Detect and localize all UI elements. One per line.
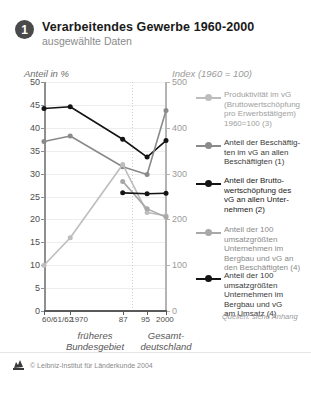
x-axis-tick-mark: [147, 312, 148, 315]
x-axis-tick-mark: [44, 312, 45, 315]
source-note: Quellen: siehe Anhang: [222, 312, 298, 321]
series-point: [164, 138, 169, 143]
y-axis-tick-label: 50: [18, 77, 40, 87]
x-axis-tick-label: 95: [141, 315, 150, 324]
y-axis-tick-label: 10: [18, 260, 40, 270]
x-axis-tick-mark: [123, 312, 124, 315]
y2-axis-tick-mark: [167, 265, 170, 266]
legend-item[interactable]: Anteil der Beschäftig-ten im vG an allen…: [196, 138, 311, 167]
series-point: [68, 134, 73, 139]
x-axis-tick-label: 2000: [156, 315, 174, 324]
figure-number-badge: 1: [15, 20, 34, 39]
y2-axis-tick-mark: [167, 128, 170, 129]
legend-label: Produktivität im vG(Bruttowertschöpfungp…: [224, 90, 311, 128]
series-line: [123, 193, 166, 194]
y-axis-tick-label: 45: [18, 100, 40, 110]
y2-axis-tick-mark: [167, 311, 170, 312]
series-line: [44, 107, 166, 157]
copyright-text: © Leibniz-Institut für Länderkunde 2004: [30, 362, 153, 369]
series-point: [164, 191, 169, 196]
legend-marker-icon: [196, 275, 221, 283]
legend-marker-icon: [196, 229, 221, 237]
y-axis-tick-label: 0: [18, 306, 40, 316]
page-title: Verarbeitendes Gewerbe 1960-2000: [42, 20, 254, 34]
series-point: [120, 179, 125, 184]
series-point: [42, 139, 47, 144]
chart-card: 1 Verarbeitendes Gewerbe 1960-2000 ausge…: [0, 0, 311, 394]
series-point: [42, 263, 47, 268]
y2-axis-tick-label: 100: [172, 260, 198, 270]
group-label-west: früheres Bundesgebiet: [52, 330, 138, 352]
y2-axis-tick-mark: [167, 82, 170, 83]
x-axis-tick-mark: [166, 312, 167, 315]
legend-label: Anteil der 100umsatzgrößtenUnternehmen i…: [224, 225, 311, 273]
legend-label: Anteil der Beschäftig-ten im vG an allen…: [224, 138, 311, 167]
series-point: [68, 104, 73, 109]
x-axis-tick-mark: [70, 312, 71, 315]
y2-axis-tick-mark: [167, 174, 170, 175]
y-axis-tick-label: 40: [18, 123, 40, 133]
x-axis-tick-label: 1970: [70, 315, 88, 324]
page-subtitle: ausgewählte Daten: [42, 35, 132, 47]
series-point: [145, 191, 150, 196]
series-layer: [44, 82, 166, 311]
y-axis-tick-label: 30: [18, 169, 40, 179]
series-point: [68, 235, 73, 240]
group-label-east-line1: Gesamt-: [128, 330, 204, 341]
legend-marker-icon: [196, 142, 221, 150]
series-line: [123, 181, 166, 217]
y2-axis-tick-label: 200: [172, 214, 198, 224]
x-axis-tick-label: 60/61/62: [42, 315, 73, 324]
group-label-east: Gesamt- deutschland: [128, 330, 204, 352]
legend-marker-icon: [196, 180, 221, 188]
series-point: [164, 108, 169, 113]
y2-axis-tick-label: 0: [172, 306, 198, 316]
legend-item[interactable]: Produktivität im vG(Bruttowertschöpfungp…: [196, 90, 311, 128]
legend-item[interactable]: Anteil der Brutto-wertschöpfung desvG an…: [196, 176, 311, 214]
y-axis-tick-label: 25: [18, 192, 40, 202]
y-axis-tick-label: 5: [18, 283, 40, 293]
group-label-west-line2: Bundesgebiet: [52, 341, 138, 352]
series-point: [120, 162, 125, 167]
footer-divider: [0, 352, 311, 353]
x-axis-tick-label: 87: [119, 315, 128, 324]
legend-item[interactable]: Anteil der 100umsatzgrößtenUnternehmen i…: [196, 225, 311, 273]
y2-axis-tick-label: 300: [172, 169, 198, 179]
group-label-east-line2: deutschland: [128, 341, 204, 352]
legend-marker-icon: [196, 94, 221, 102]
y-axis-tick-label: 35: [18, 146, 40, 156]
institute-logo-icon: [12, 357, 27, 371]
legend-label: Anteil der Brutto-wertschöpfung desvG an…: [224, 176, 311, 214]
y-axis-tick-label: 20: [18, 214, 40, 224]
series-point: [145, 155, 150, 160]
group-label-west-line1: früheres: [52, 330, 138, 341]
y-axis-tick-label: 15: [18, 237, 40, 247]
y2-axis-tick-label: 400: [172, 123, 198, 133]
y2-axis-tick-mark: [167, 219, 170, 220]
series-point: [164, 215, 169, 220]
y2-axis-tick-label: 500: [172, 77, 198, 87]
series-point: [120, 137, 125, 142]
series-point: [42, 106, 47, 111]
series-point: [145, 172, 150, 177]
series-point: [145, 206, 150, 211]
series-point: [120, 190, 125, 195]
series-line: [44, 110, 166, 174]
